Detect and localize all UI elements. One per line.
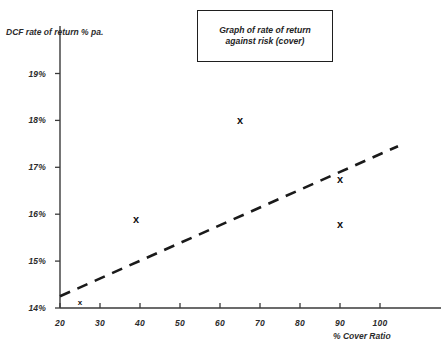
y-axis-tick-label: 17%	[12, 162, 46, 172]
x-axis-tick-label: 20	[45, 318, 75, 328]
y-axis-tick-label: 16%	[12, 209, 46, 219]
chart-title-text: Graph of rate of return against risk (co…	[198, 25, 332, 47]
y-axis-tick-label: 14%	[12, 303, 46, 313]
y-axis-tick-label: 18%	[12, 115, 46, 125]
data-point-marker: x	[337, 218, 343, 229]
data-point-marker: x	[337, 174, 343, 185]
chart-title-box: Graph of rate of return against risk (co…	[197, 10, 333, 62]
y-axis-tick-label: 15%	[12, 256, 46, 266]
x-axis-tick-label: 80	[285, 318, 315, 328]
x-axis-tick-label: 30	[85, 318, 115, 328]
data-point-marker: x	[237, 115, 243, 126]
x-axis-tick-label: 70	[245, 318, 275, 328]
data-point-marker: x	[133, 213, 139, 224]
x-axis-title: % Cover Ratio	[333, 331, 391, 342]
y-axis-title: DCF rate of return % pa.	[6, 27, 66, 38]
x-axis-tick-label: 40	[125, 318, 155, 328]
x-axis-tick-label: 50	[165, 318, 195, 328]
data-point-marker: x	[78, 299, 82, 307]
y-axis-tick-label: 19%	[12, 69, 46, 79]
x-axis-tick-label: 60	[205, 318, 235, 328]
x-axis-tick-label: 90	[325, 318, 355, 328]
chart-container: DCF rate of return % pa. % Cover Ratio 1…	[0, 0, 443, 345]
x-axis-tick-label: 100	[365, 318, 395, 328]
